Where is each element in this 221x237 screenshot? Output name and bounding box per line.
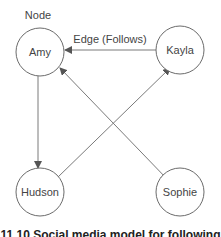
node-label: Kayla: [166, 44, 194, 56]
social-graph-diagram: Amy Kayla Hudson Sophie Node Edge (Follo…: [0, 0, 221, 237]
edge-annotation: Edge (Follows): [73, 33, 146, 45]
node-kayla: Kayla: [156, 26, 204, 74]
node-label: Hudson: [21, 186, 59, 198]
node-label: Amy: [29, 46, 52, 58]
node-amy: Amy: [16, 28, 64, 76]
node-annotation: Node: [25, 9, 51, 21]
node-sophie: Sophie: [156, 168, 204, 216]
edge-amy-sophie: [60, 68, 168, 180]
node-label: Sophie: [163, 186, 197, 198]
figure-caption: 11.10 Social media model for following: [0, 228, 221, 237]
node-hudson: Hudson: [16, 168, 64, 216]
